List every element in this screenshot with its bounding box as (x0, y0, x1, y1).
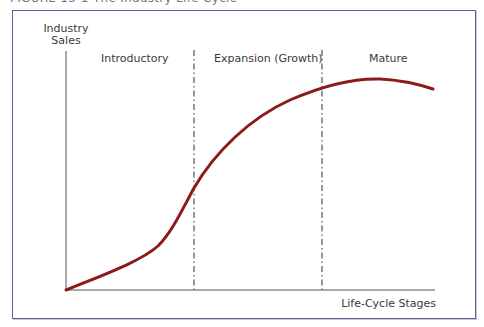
stage-label-mature: Mature (369, 52, 408, 65)
y-axis-label: Industry Sales (36, 23, 96, 47)
life-cycle-chart (0, 0, 484, 327)
y-axis-label-text: Industry Sales (40, 23, 92, 47)
industry-sales-curve (66, 79, 433, 290)
stage-label-introductory: Introductory (101, 52, 169, 65)
x-axis-label: Life-Cycle Stages (341, 297, 436, 310)
stage-label-expansion: Expansion (Growth) (214, 52, 323, 65)
